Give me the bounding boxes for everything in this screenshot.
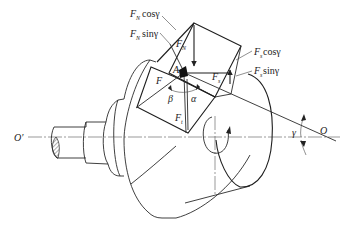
cutting-face-lower bbox=[137, 67, 215, 133]
label-f: F bbox=[155, 75, 163, 86]
rotation-arrow-path bbox=[203, 117, 228, 153]
gamma-angle-marker bbox=[300, 114, 306, 155]
svg-text:N: N bbox=[181, 45, 187, 51]
point-a-marker bbox=[179, 66, 188, 78]
tool-step-1 bbox=[83, 122, 108, 164]
label-point-a: A bbox=[172, 64, 180, 75]
svg-text:t: t bbox=[181, 119, 183, 125]
shaft-section-hatch bbox=[52, 137, 59, 158]
label-origin-o: O bbox=[320, 125, 327, 136]
label-fn-sin: F N sinγ bbox=[129, 28, 159, 41]
svg-text:cosγ: cosγ bbox=[142, 8, 160, 19]
svg-text:sinγ: sinγ bbox=[263, 65, 280, 76]
svg-text:s: s bbox=[218, 78, 221, 84]
diagram-canvas: F N cosγ F N sinγ F s cosγ F s sinγ F N … bbox=[0, 0, 346, 231]
label-alpha: α bbox=[191, 93, 197, 104]
svg-text:cosγ: cosγ bbox=[263, 46, 281, 57]
tool-end-face bbox=[203, 74, 272, 195]
svg-text:F: F bbox=[155, 75, 163, 86]
label-gamma: γ bbox=[292, 127, 297, 138]
label-fn-cos: F N cosγ bbox=[129, 8, 160, 21]
svg-text:N: N bbox=[135, 15, 141, 21]
angle-arc-beta-alpha bbox=[168, 87, 200, 92]
tool-step-2 bbox=[106, 99, 124, 176]
label-beta: β bbox=[167, 93, 173, 104]
rotation-arrow-head bbox=[226, 126, 231, 134]
cutting-face-upper bbox=[157, 23, 241, 97]
tool-shaft bbox=[51, 127, 86, 158]
label-origin-o-prime: O′ bbox=[14, 132, 24, 143]
inclined-axis-line bbox=[178, 70, 336, 141]
label-ft: F t bbox=[174, 112, 183, 125]
svg-text:sinγ: sinγ bbox=[142, 28, 159, 39]
label-fs-cos: F s cosγ bbox=[253, 46, 281, 59]
label-fs-sin: F s sinγ bbox=[253, 65, 280, 78]
svg-text:N: N bbox=[135, 35, 141, 41]
